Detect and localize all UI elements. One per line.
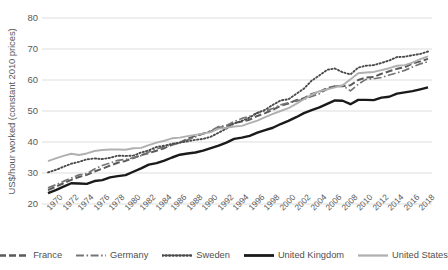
legend-label: France bbox=[33, 250, 62, 260]
y-tick-label: 80 bbox=[18, 13, 42, 23]
legend-item-united-states[interactable]: United States bbox=[358, 250, 448, 260]
dashdot-line-swatch bbox=[76, 251, 106, 260]
legend-label: Sweden bbox=[196, 250, 230, 260]
plot-svg bbox=[42, 0, 432, 222]
legend-item-united-kingdom[interactable]: United Kingdom bbox=[244, 250, 344, 260]
legend-item-france[interactable]: France bbox=[0, 250, 62, 260]
legend-label: United States bbox=[392, 250, 448, 260]
legend-label: Germany bbox=[110, 250, 148, 260]
gridlines bbox=[42, 18, 432, 204]
chart-legend: FranceGermanySwedenUnited KingdomUnited … bbox=[0, 244, 447, 266]
y-tick-label: 40 bbox=[18, 137, 42, 147]
y-tick-label: 60 bbox=[18, 75, 42, 85]
series-line-united-kingdom bbox=[48, 87, 428, 193]
legend-item-germany[interactable]: Germany bbox=[76, 250, 148, 260]
series-line-sweden bbox=[48, 51, 428, 172]
x-axis-tick-labels: 1970197219741976197819801982198419861988… bbox=[42, 206, 432, 246]
y-axis-title-label: US$/hour worked (constant 2010 prices) bbox=[6, 28, 17, 194]
solid-light-line-swatch bbox=[358, 251, 388, 260]
plot-area bbox=[42, 0, 432, 222]
legend-label: United Kingdom bbox=[278, 250, 344, 260]
series-line-united-states bbox=[48, 56, 428, 161]
dashed-line-swatch bbox=[0, 251, 29, 260]
series-line-germany bbox=[48, 62, 428, 188]
y-tick-label: 50 bbox=[18, 106, 42, 116]
series-lines bbox=[48, 51, 428, 193]
y-tick-label: 30 bbox=[18, 168, 42, 178]
y-axis-tick-labels: 80706050403020 bbox=[18, 0, 42, 222]
solid-dark-line-swatch bbox=[244, 251, 274, 260]
legend-item-sweden[interactable]: Sweden bbox=[162, 250, 230, 260]
dotted-line-swatch bbox=[162, 251, 192, 260]
y-tick-label: 70 bbox=[18, 44, 42, 54]
y-tick-label: 20 bbox=[18, 199, 42, 209]
